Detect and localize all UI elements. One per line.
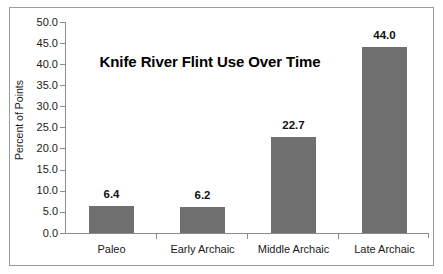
y-tick-label: 45.0	[10, 38, 58, 49]
x-category-label-late-archaic: Late Archaic	[339, 243, 430, 255]
x-axis-tick	[247, 234, 248, 239]
y-tick-label: 5.0	[10, 206, 58, 217]
x-axis-end-tick	[428, 233, 429, 238]
chart-container: 50.0 45.0 40.0 35.0 30.0 25.0 20.0 15.0 …	[0, 0, 443, 274]
bar-middle-archaic	[271, 137, 316, 233]
y-axis-line	[65, 22, 66, 234]
x-category-label-middle-archaic: Middle Archaic	[248, 243, 339, 255]
x-axis-tick	[156, 234, 157, 239]
chart-title: Knife River Flint Use Over Time	[70, 53, 350, 70]
y-tick-label: 10.0	[10, 185, 58, 196]
y-tick-label: 50.0	[10, 17, 58, 28]
bar-value-label: 44.0	[360, 29, 409, 41]
bar-late-archaic	[362, 47, 407, 233]
bar-early-archaic	[180, 207, 225, 233]
y-tick-label: 0.0	[10, 228, 58, 239]
bar-value-label: 22.7	[269, 119, 318, 131]
x-category-label-early-archaic: Early Archaic	[157, 243, 248, 255]
y-axis-title: Percent of Points	[13, 60, 25, 180]
x-category-label-paleo: Paleo	[66, 243, 157, 255]
bar-value-label: 6.2	[180, 189, 225, 201]
bar-paleo	[89, 206, 134, 233]
x-axis-tick	[338, 234, 339, 239]
bar-value-label: 6.4	[89, 188, 134, 200]
